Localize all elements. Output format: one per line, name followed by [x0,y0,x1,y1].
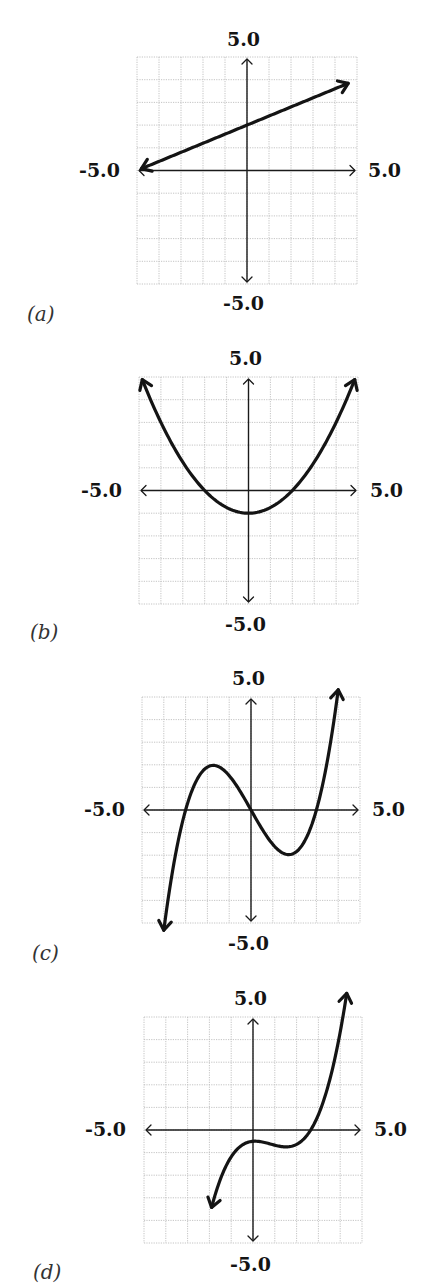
y-min-label: -5.0 [230,1255,271,1274]
graph-panel-d: 5.0 -5.0 -5.0 5.0 (d) [0,0,448,1285]
x-min-label: -5.0 [85,1120,126,1139]
plot-area-d [0,0,448,1285]
y-max-label: 5.0 [234,989,267,1008]
x-max-label: 5.0 [374,1120,407,1139]
panel-label-d: (d) [33,1262,61,1282]
